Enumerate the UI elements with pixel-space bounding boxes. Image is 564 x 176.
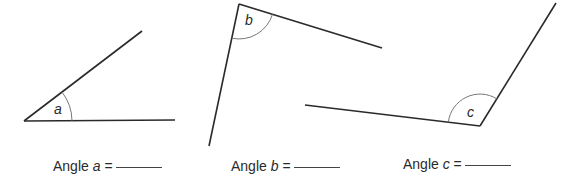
angle-a-label-var: a	[93, 158, 101, 174]
angle-c-arm-up	[480, 3, 556, 126]
angle-a-label-prefix: Angle	[53, 158, 93, 174]
angle-b-arm-down	[209, 4, 239, 146]
angle-c-symbol: c	[467, 104, 474, 120]
angle-c-label-var: c	[443, 156, 450, 172]
angle-b-answer-line: Angle b =	[231, 158, 340, 174]
angle-c-label-prefix: Angle	[403, 156, 443, 172]
angle-b-label-var: b	[271, 158, 279, 174]
angle-c-answer-blank[interactable]	[465, 165, 511, 166]
angle-a-arm-diagonal	[24, 31, 142, 121]
angle-a-diagram	[24, 31, 175, 121]
angle-a-label-equals: =	[101, 158, 113, 174]
angle-a-arc	[62, 92, 72, 121]
angle-a-answer-blank[interactable]	[116, 167, 162, 168]
angle-c-answer-line: Angle c =	[403, 156, 511, 172]
angle-b-arm-right	[239, 4, 382, 48]
angle-b-answer-blank[interactable]	[294, 167, 340, 168]
angles-figure	[0, 0, 564, 176]
angle-b-diagram	[209, 4, 382, 146]
angle-a-answer-line: Angle a =	[53, 158, 162, 174]
angle-c-label-equals: =	[450, 156, 462, 172]
angle-b-label-equals: =	[279, 158, 291, 174]
angle-a-symbol: a	[54, 101, 62, 117]
angle-a-arm-horizontal	[24, 120, 175, 121]
angle-b-symbol: b	[245, 12, 253, 28]
angle-b-label-prefix: Angle	[231, 158, 271, 174]
angle-c-diagram	[305, 3, 556, 126]
